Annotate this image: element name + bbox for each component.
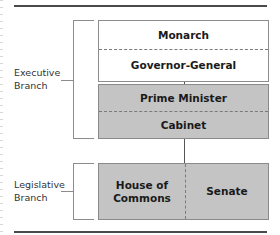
cabinet-cell: Cabinet (99, 112, 268, 139)
legislative-label-line-1: Legislative (14, 178, 65, 191)
house-of-commons-line-2: Commons (113, 192, 171, 205)
executive-bracket-tick (61, 80, 73, 81)
government-box: Prime Minister Cabinet (98, 84, 269, 139)
prime-minister-cell: Prime Minister (99, 85, 268, 112)
monarch-label: Monarch (158, 29, 209, 42)
cabinet-label: Cabinet (161, 119, 207, 132)
legislative-bracket (73, 163, 94, 220)
executive-branch-label: Executive Branch (14, 66, 60, 92)
house-of-commons-cell: House of Commons (99, 164, 185, 219)
parliament-box: House of Commons Senate (98, 163, 269, 220)
connector-cabinet-to-parliament (184, 139, 185, 163)
governor-general-cell: Governor-General (99, 50, 268, 81)
senate-label: Senate (206, 185, 247, 198)
legislative-bracket-tick (61, 191, 73, 192)
bottom-rule (14, 231, 267, 233)
legislative-label-line-2: Branch (14, 191, 65, 204)
executive-label-line-2: Branch (14, 79, 60, 92)
house-of-commons-line-1: House of (116, 179, 168, 192)
legislative-branch-label: Legislative Branch (14, 178, 65, 204)
governor-general-label: Governor-General (131, 59, 236, 72)
prime-minister-label: Prime Minister (140, 92, 227, 105)
monarch-cell: Monarch (99, 21, 268, 49)
crown-box: Monarch Governor-General (98, 20, 269, 82)
top-rule (14, 5, 267, 7)
senate-cell: Senate (186, 164, 268, 219)
page-margin-edge (0, 0, 3, 235)
executive-bracket (73, 20, 94, 139)
executive-label-line-1: Executive (14, 66, 60, 79)
